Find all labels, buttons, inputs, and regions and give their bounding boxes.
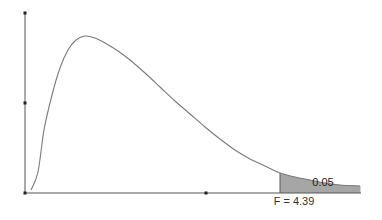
axes <box>24 12 362 195</box>
critical-value-label: F = 4.39 <box>264 195 324 207</box>
x-axis-mid-dot <box>205 192 208 195</box>
density-curve <box>31 36 360 190</box>
y-axis-mid-dot <box>24 102 27 105</box>
y-axis-top-dot <box>24 12 27 15</box>
tail-probability-label: 0.05 <box>303 176 343 188</box>
origin-dot <box>24 192 27 195</box>
